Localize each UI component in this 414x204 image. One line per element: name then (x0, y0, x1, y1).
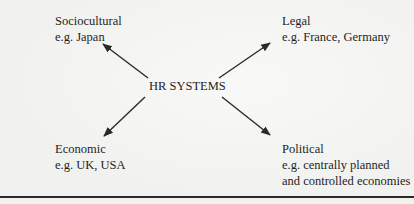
node-example: e.g. Japan (55, 29, 122, 45)
node-title: Political (282, 141, 410, 157)
node-title: Legal (282, 13, 390, 29)
center-node-hr-systems: HR SYSTEMS (149, 78, 226, 94)
node-example: e.g. UK, USA (55, 157, 125, 173)
arrow-to-political (222, 97, 270, 135)
node-example-continued: and controlled economies (282, 173, 410, 189)
node-title: Sociocultural (55, 13, 122, 29)
node-economic: Economic e.g. UK, USA (55, 141, 125, 173)
arrow-to-legal (219, 43, 270, 78)
node-example: e.g. France, Germany (282, 29, 390, 45)
horizontal-rule (0, 196, 414, 198)
arrow-to-sociocultural (103, 44, 148, 78)
node-sociocultural: Sociocultural e.g. Japan (55, 13, 122, 45)
node-political: Political e.g. centrally planned and con… (282, 141, 410, 189)
node-title: Economic (55, 141, 125, 157)
node-example: e.g. centrally planned (282, 157, 410, 173)
node-legal: Legal e.g. France, Germany (282, 13, 390, 45)
arrow-to-economic (104, 97, 145, 136)
